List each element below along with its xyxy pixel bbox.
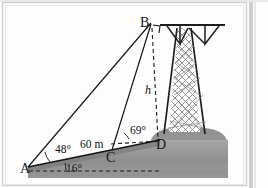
diagram-canvas: A B C D 48° 16° 69° 60 m h <box>0 0 268 188</box>
geometry-figure: A B C D 48° 16° 69° 60 m h <box>0 0 268 188</box>
height-label-h: h <box>145 83 151 97</box>
angle-label-16: 16° <box>66 162 83 174</box>
point-label-B: B <box>140 15 149 30</box>
right-angle-marker-B <box>153 25 160 33</box>
length-label-AC: 60 m <box>80 138 103 150</box>
angle-label-69: 69° <box>130 124 147 136</box>
arc-48-at-A <box>45 152 50 162</box>
point-label-A: A <box>20 161 31 176</box>
angle-label-48: 48° <box>55 143 72 155</box>
arc-69-at-C <box>124 133 129 139</box>
point-label-C: C <box>106 150 115 165</box>
height-line-BD <box>152 28 158 139</box>
transmission-tower <box>160 25 225 134</box>
point-label-D: D <box>156 137 166 152</box>
tower-body-lattice <box>169 28 200 132</box>
